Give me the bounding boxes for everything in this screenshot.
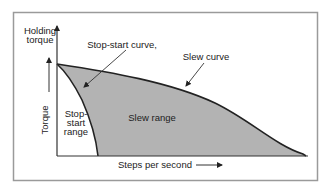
torque-speed-diagram: Holding torque Torque Stop-start curve, …: [0, 0, 328, 191]
holding-torque-label-line2: torque: [27, 34, 54, 45]
slew-range-label: Slew range: [128, 112, 176, 123]
stop-start-curve-label: Stop-start curve,: [87, 39, 157, 50]
steps-per-second-label: Steps per second: [118, 159, 192, 170]
torque-axis-label: Torque: [39, 105, 50, 134]
stop-start-range-label-line3: range: [64, 126, 88, 137]
slew-curve-label: Slew curve: [183, 51, 229, 62]
